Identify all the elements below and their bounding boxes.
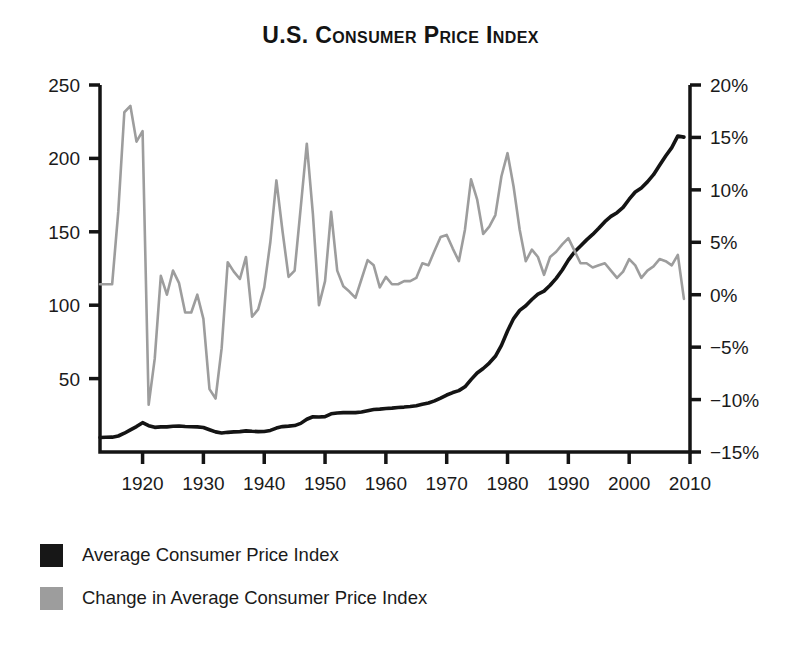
series-line xyxy=(100,106,684,405)
svg-text:1980: 1980 xyxy=(486,473,528,494)
svg-text:−15%: −15% xyxy=(710,442,759,463)
svg-text:2010: 2010 xyxy=(669,473,711,494)
svg-text:0%: 0% xyxy=(710,285,738,306)
legend-item-average-cpi: Average Consumer Price Index xyxy=(40,534,740,577)
svg-text:1990: 1990 xyxy=(547,473,589,494)
series-line xyxy=(100,136,684,438)
svg-text:−5%: −5% xyxy=(710,337,749,358)
chart-page: U.S. Consumer Price Index 50100150200250… xyxy=(0,0,801,652)
svg-text:1970: 1970 xyxy=(426,473,468,494)
chart-svg: 50100150200250−15%−10%−5%0%5%10%15%20%19… xyxy=(0,0,801,520)
svg-text:200: 200 xyxy=(48,148,80,169)
svg-text:10%: 10% xyxy=(710,180,748,201)
svg-text:1950: 1950 xyxy=(304,473,346,494)
svg-text:250: 250 xyxy=(48,75,80,96)
legend-label: Change in Average Consumer Price Index xyxy=(82,589,427,608)
svg-text:−10%: −10% xyxy=(710,390,759,411)
svg-text:1920: 1920 xyxy=(121,473,163,494)
svg-text:50: 50 xyxy=(59,369,80,390)
gray-swatch xyxy=(40,587,63,610)
data-series xyxy=(100,106,684,438)
svg-text:15%: 15% xyxy=(710,127,748,148)
chart-legend: Average Consumer Price Index Change in A… xyxy=(40,534,740,620)
svg-text:1940: 1940 xyxy=(243,473,285,494)
legend-label: Average Consumer Price Index xyxy=(82,546,339,565)
svg-text:1960: 1960 xyxy=(365,473,407,494)
svg-text:100: 100 xyxy=(48,295,80,316)
svg-text:150: 150 xyxy=(48,222,80,243)
svg-text:20%: 20% xyxy=(710,75,748,96)
svg-text:2000: 2000 xyxy=(608,473,650,494)
tick-labels: 50100150200250−15%−10%−5%0%5%10%15%20%19… xyxy=(48,75,759,494)
svg-text:5%: 5% xyxy=(710,232,738,253)
black-swatch xyxy=(40,544,63,567)
legend-item-change-cpi: Change in Average Consumer Price Index xyxy=(40,577,740,620)
svg-text:1930: 1930 xyxy=(182,473,224,494)
plot-area: 50100150200250−15%−10%−5%0%5%10%15%20%19… xyxy=(0,0,801,520)
